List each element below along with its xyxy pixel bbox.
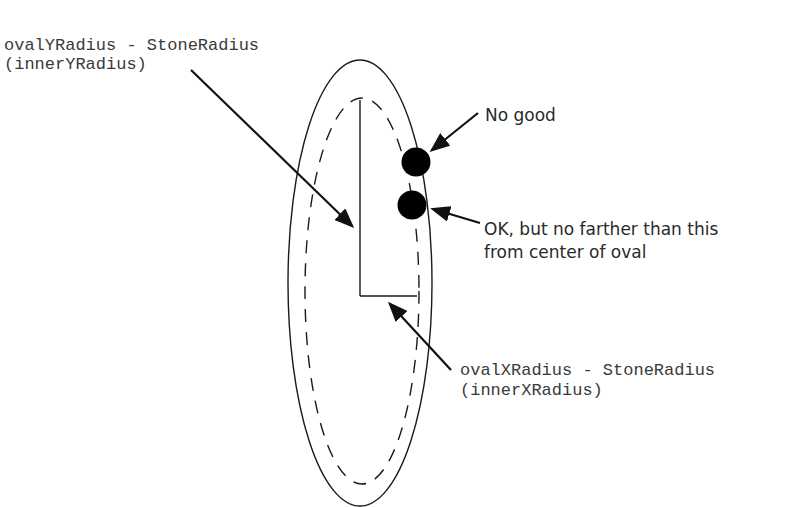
inner-x-label-line2: (innerXRadius) xyxy=(460,381,603,400)
inner-x-label-line1: ovalXRadius - StoneRadius xyxy=(460,361,715,380)
oval-radius-diagram: ovalYRadius - StoneRadius (innerYRadius)… xyxy=(0,0,787,507)
ok-stone xyxy=(398,191,427,220)
inner-dashed-oval xyxy=(305,98,419,484)
ok-arrow xyxy=(433,209,480,223)
inner-y-label-line2: (innerYRadius) xyxy=(4,55,147,74)
inner-y-label-arrow xyxy=(191,70,352,226)
ok-label-line2: from center of oval xyxy=(484,242,646,262)
no-good-arrow xyxy=(432,113,478,150)
inner-x-label-arrow xyxy=(390,304,451,370)
ok-label-line1: OK, but no farther than this xyxy=(484,219,718,239)
no-good-label: No good xyxy=(485,105,556,125)
inner-y-label-line1: ovalYRadius - StoneRadius xyxy=(4,36,259,55)
no-good-stone xyxy=(402,148,431,177)
